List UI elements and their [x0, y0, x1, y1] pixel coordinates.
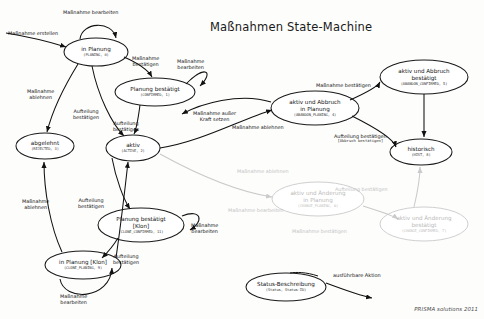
edge-label-massnahme_bearbeiten_4: Maßnahmebearbeiten	[191, 222, 218, 234]
edge-label-massnahme_bearbeiten_1: Maßnahme bearbeiten	[63, 9, 118, 15]
edge-label-massnahme_erstellen: Maßnahme erstellen	[8, 30, 58, 36]
state-node-code: (REJECTED, 3)	[31, 147, 59, 151]
edge-label-massnahme_bearbeiten_5: Maßnahmebearbeiten	[60, 293, 87, 305]
edge-label-massnahme_bestaetigen_3: Maßnahme bestätigen	[292, 228, 347, 234]
state-node-title: historisch	[407, 146, 434, 153]
edge-label-massnahme_ablehnen_1: Maßnahmeablehnen	[27, 88, 54, 100]
edge-aktiv-to-aend-planung	[160, 154, 272, 197]
state-node-code: (HIST, 8)	[411, 153, 430, 157]
edge-label-massnahme_bestaetigen_2: Maßnahme bestätigen	[316, 82, 371, 88]
state-node-planung_bestaetigt[interactable]: Planung bestätigt(CONFIRMED, 1)	[115, 78, 195, 106]
state-node-aktiv_abbruch_best[interactable]: aktiv und Abbruchbestätigt(ABANDON_CONFI…	[380, 60, 468, 94]
state-node-code: (ABANDON_PLANING, 4)	[294, 113, 336, 117]
state-node-title: Planung bestätigt[Klon]	[116, 216, 165, 230]
edge-aend-bestaetigt-to-historisch	[414, 167, 420, 207]
state-node-title: abgelehnt	[31, 140, 59, 147]
state-node-title: in Planung [Klon]	[59, 259, 107, 266]
edge-label-massnahme_ablehnen_3: Maßnahme ablehnen	[237, 168, 289, 174]
state-node-title: aktiv	[126, 142, 140, 149]
edge-label-massnahme_ablehnen_4: Maßnahmeablehnen	[22, 198, 49, 210]
edge-label-massnahme_bearbeiten_3: Maßnahme bearbeiten	[228, 207, 283, 213]
state-node-abgelehnt[interactable]: abgelehnt(REJECTED, 3)	[16, 133, 74, 159]
state-node-title: in Planung	[81, 46, 110, 53]
state-node-aktiv_abbruch_pl[interactable]: aktiv und Abbruchin Planung(ABANDON_PLAN…	[271, 91, 359, 125]
state-node-code: (CONFIRMED, 1)	[140, 93, 170, 97]
state-node-code: (CLONE_PLANING, 9)	[64, 266, 102, 270]
edge-label-sub: [Abbruch bestätigen]	[334, 139, 387, 144]
state-node-planung_best_klon[interactable]: Planung bestätigt[Klon](CLONE_CONFIRMED,…	[98, 208, 184, 242]
legend-status-title: Status-Beschreibung	[257, 281, 315, 288]
state-node-historisch[interactable]: historisch(HIST, 8)	[390, 139, 452, 165]
edge-label-aufteilung_bestaetigen_4: Aufteilung bestätigen	[335, 186, 388, 192]
state-node-code: (ACTIVE, 2)	[121, 149, 144, 153]
legend-action-label: ausführbare Aktion	[333, 272, 381, 278]
edge-label-massnahme_ablehnen_2: Maßnahme ablehnen	[232, 124, 284, 130]
state-node-aktiv[interactable]: aktiv(ACTIVE, 2)	[106, 135, 160, 161]
state-node-in_planung_klon[interactable]: in Planung [Klon](CLONE_PLANING, 9)	[45, 251, 121, 279]
edge-label-aufteilung_bestaetigen_6: Aufteilungbestätigen	[113, 253, 139, 265]
edge-label-aufteilung_bestaetigen_3: Aufteilung bestätigen[Abbruch bestätigen…	[334, 133, 387, 144]
edge-label-massnahme_ausser_kraft: Maßnahme außerKraft setzen	[193, 110, 236, 122]
edge-label-massnahme_bearbeiten_2: Maßnahmebearbeiten	[177, 58, 204, 70]
legend-status-code: (Status, Status-ID)	[266, 288, 306, 292]
edge-legend-action-pointer	[326, 283, 372, 298]
state-node-aktiv_aend_best[interactable]: aktiv und Änderungbestätigt(CHANGE_CONFI…	[380, 207, 468, 241]
state-node-code: (PLANING, 0)	[83, 53, 108, 57]
legend-status-node: Status-Beschreibung(Status, Status-ID)	[246, 273, 326, 301]
edge-label-aufteilung_bestaetigen_1: Aufteilungbestätigen	[73, 108, 99, 120]
footer-credit: PRISMA solutions 2011	[414, 306, 478, 312]
state-node-code: (ABANDON_CONFIRMED, 5)	[401, 82, 448, 86]
edge-in-planung-self-loop	[80, 25, 116, 39]
edge-label-massnahme_bestaetigen_1: Maßnahmebestätigen	[132, 55, 159, 67]
state-node-title: aktiv und Änderungbestätigt	[396, 215, 451, 229]
edge-label-aufteilung_bestaetigen_5: Aufteilungbestätigen	[78, 197, 104, 209]
state-node-title: aktiv und Abbruchin Planung	[289, 99, 340, 113]
state-node-title: aktiv und Abbruchbestätigt	[398, 68, 449, 82]
state-node-code: (CHANGE_CONFIRMED, 7)	[402, 229, 447, 233]
page-title: Maßnahmen State-Machine	[210, 20, 372, 34]
state-node-code: (CHANGE_PLANING, 6)	[298, 204, 338, 208]
state-node-title: Planung bestätigt	[130, 86, 179, 93]
state-node-in_planung[interactable]: in Planung(PLANING, 0)	[64, 38, 128, 66]
state-node-code: (CLONE_CONFIRMED, 11)	[119, 230, 164, 234]
edge-label-aufteilung_bestaetigen_2: Aufteilungbestätigen	[113, 120, 139, 132]
